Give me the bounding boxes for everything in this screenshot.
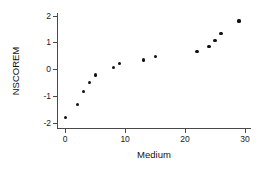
chart-figure: NSCOREM -2-1012 0102030 Medium xyxy=(0,0,274,176)
y-tick-label: -2 xyxy=(43,118,51,127)
y-axis-label-container: NSCOREM xyxy=(9,13,23,129)
scatter-point xyxy=(142,58,145,61)
scatter-point xyxy=(64,116,67,119)
scatter-point xyxy=(112,66,115,69)
x-tick-mark xyxy=(125,128,126,133)
y-tick-label: -1 xyxy=(43,92,51,101)
scatter-point xyxy=(195,50,198,53)
scatter-point xyxy=(219,32,222,35)
y-tick-mark xyxy=(53,123,58,124)
scatter-point xyxy=(237,19,240,22)
scatter-point xyxy=(207,45,210,48)
x-tick-label: 30 xyxy=(240,135,249,144)
x-tick-label: 0 xyxy=(63,135,68,144)
scatter-point xyxy=(118,62,121,65)
scatter-point xyxy=(154,55,157,58)
plot-area: -2-1012 0102030 xyxy=(57,13,251,129)
y-tick-mark xyxy=(53,69,58,70)
y-tick-mark xyxy=(53,42,58,43)
scatter-point xyxy=(94,73,97,76)
y-tick-mark xyxy=(53,16,58,17)
x-tick-mark xyxy=(185,128,186,133)
x-tick-mark xyxy=(65,128,66,133)
scatter-point xyxy=(213,39,216,42)
scatter-point xyxy=(82,90,85,93)
y-tick-label: 1 xyxy=(46,38,51,47)
x-tick-label: 20 xyxy=(180,135,189,144)
y-tick-label: 2 xyxy=(46,11,51,20)
x-tick-label: 10 xyxy=(120,135,129,144)
scatter-point xyxy=(76,103,79,106)
x-axis-label: Medium xyxy=(57,150,251,160)
scatter-point xyxy=(88,81,91,84)
y-tick-mark xyxy=(53,96,58,97)
y-axis-label: NSCOREM xyxy=(11,47,21,96)
x-tick-mark xyxy=(245,128,246,133)
y-tick-label: 0 xyxy=(46,65,51,74)
